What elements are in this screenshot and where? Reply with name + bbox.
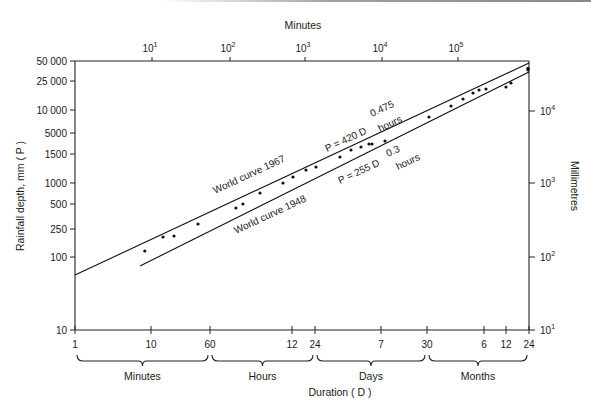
left-tick-label: 1500 — [45, 149, 68, 160]
data-point — [258, 191, 261, 194]
curve-label-1967: World curve 1967 — [211, 153, 287, 196]
data-point — [281, 181, 284, 184]
bottom-tick-label: 12 — [286, 339, 298, 350]
top-tick-label: 103 — [295, 41, 310, 54]
left-tick-label: 5000 — [45, 128, 68, 139]
bottom-tick-label: 10 — [145, 339, 157, 350]
data-point — [509, 81, 512, 84]
left-tick-label: 10 — [56, 325, 68, 336]
data-point — [477, 88, 480, 91]
bottom-tick-label: 12 — [500, 339, 512, 350]
data-point — [504, 85, 507, 88]
top-tick-label: 104 — [372, 41, 387, 54]
data-point — [367, 142, 370, 145]
data-point — [359, 145, 362, 148]
top-tick-label: 102 — [220, 41, 235, 54]
bottom-tick-label: 60 — [204, 339, 216, 350]
bottom-axis-title: Duration ( D ) — [308, 386, 371, 398]
right-axis-title: Millimetres — [569, 161, 581, 211]
data-point — [349, 148, 352, 151]
data-point — [241, 202, 244, 205]
data-point — [461, 97, 464, 100]
left-tick-label: 100 — [50, 252, 67, 263]
right-tick-label: 104 — [540, 104, 555, 117]
duration-group-label: Months — [461, 370, 495, 382]
data-point — [526, 67, 529, 70]
data-point — [161, 235, 164, 238]
bottom-tick-label: 1 — [72, 339, 78, 350]
data-point — [427, 115, 430, 118]
left-tick-label: 10 000 — [36, 105, 67, 116]
equation-1967-unit: hours — [376, 113, 403, 134]
data-point — [172, 234, 175, 237]
data-point — [234, 206, 237, 209]
equation-1967: P = 420 D — [323, 125, 368, 154]
bottom-tick-label: 24 — [309, 339, 321, 350]
left-axis-title: Rainfall depth, mm ( P ) — [14, 141, 26, 251]
duration-group-label: Hours — [248, 370, 276, 382]
right-tick-label: 102 — [540, 250, 555, 263]
duration-group-braces: MinutesHoursDaysMonths — [77, 355, 527, 382]
top-tick-label: 105 — [448, 41, 463, 54]
left-tick-label: 250 — [50, 224, 67, 235]
rainfall-depth-duration-chart: 50 00025 00010 0005000150010005002501001… — [0, 0, 591, 412]
data-point — [471, 91, 474, 94]
data-point — [484, 87, 487, 90]
duration-group-label: Days — [359, 370, 383, 382]
data-point — [338, 155, 341, 158]
data-point — [370, 142, 373, 145]
observed-data-points — [143, 67, 529, 253]
bottom-tick-label: 6 — [481, 339, 487, 350]
bottom-tick-label: 30 — [421, 339, 433, 350]
bottom-tick-label: 24 — [523, 339, 535, 350]
top-axis-title: Minutes — [285, 19, 322, 31]
duration-brace — [77, 355, 208, 366]
left-y-axis-ticks: 50 00025 00010 0005000150010005002501001… — [36, 56, 75, 336]
right-tick-label: 103 — [540, 176, 555, 189]
left-tick-label: 50 000 — [36, 56, 67, 67]
duration-group-label: Minutes — [124, 370, 161, 382]
left-tick-label: 25 000 — [36, 76, 67, 87]
data-point — [383, 139, 386, 142]
bottom-tick-label: 7 — [378, 339, 384, 350]
right-y-axis-ticks: 104103102101 — [529, 104, 555, 336]
data-point — [449, 104, 452, 107]
data-point — [291, 175, 294, 178]
data-point — [196, 222, 199, 225]
duration-brace — [429, 355, 527, 366]
top-tick-label: 101 — [142, 41, 157, 54]
top-x-axis-ticks: 101102103104105 — [142, 41, 463, 61]
data-point — [304, 168, 307, 171]
right-tick-label: 101 — [540, 323, 555, 336]
world-curve-1967-line — [75, 63, 529, 275]
data-point — [314, 165, 317, 168]
equation-1948-exponent: 0.3 — [384, 143, 402, 159]
equation-1948: P = 255 D — [336, 157, 381, 186]
duration-brace — [317, 355, 425, 366]
world-curve-1948-line — [140, 72, 529, 266]
duration-brace — [212, 355, 313, 366]
data-point — [143, 249, 146, 252]
left-tick-label: 500 — [50, 199, 67, 210]
left-tick-label: 1000 — [45, 178, 68, 189]
